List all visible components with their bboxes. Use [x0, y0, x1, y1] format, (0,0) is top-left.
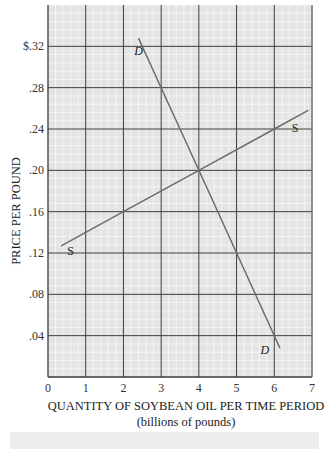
plot-area [48, 5, 312, 377]
supply-demand-chart: DDSS 01234567.04.08.12.16.20.24.28$.32 Q… [0, 0, 329, 449]
x-tick-label: 6 [271, 381, 277, 395]
y-tick-label: .08 [29, 287, 44, 301]
x-tick-label: 3 [158, 381, 164, 395]
demand-curve-label: D [260, 343, 270, 357]
x-tick-label: 7 [309, 381, 315, 395]
demand-curve-label: D [133, 44, 143, 58]
supply-curve-label: S [292, 121, 299, 135]
y-tick-label: .04 [29, 329, 44, 343]
x-tick-label: 1 [83, 381, 89, 395]
supply-curve-label: S [67, 244, 74, 258]
x-tick-label: 5 [234, 381, 240, 395]
x-tick-label: 4 [196, 381, 202, 395]
y-tick-label: .20 [29, 163, 44, 177]
bottom-bar [10, 432, 319, 449]
x-axis-title: QUANTITY OF SOYBEAN OIL PER TIME PERIOD [48, 399, 325, 413]
x-tick-label: 2 [120, 381, 126, 395]
x-axis-subtitle: (billions of pounds) [137, 415, 236, 429]
y-tick-label: .16 [29, 205, 44, 219]
x-tick-label: 0 [45, 381, 51, 395]
y-tick-label: $.32 [23, 39, 44, 53]
y-tick-label: .24 [29, 122, 44, 136]
y-axis-title: PRICE PER POUND [9, 157, 23, 265]
y-tick-label: .28 [29, 81, 44, 95]
y-tick-label: .12 [29, 246, 44, 260]
